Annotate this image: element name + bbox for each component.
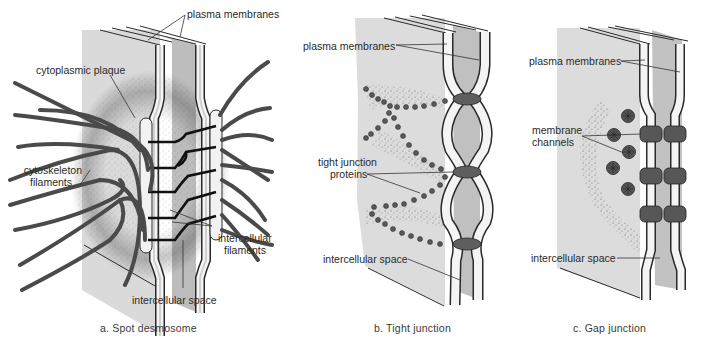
label-cytoskeleton-filaments-line2: filaments (10, 176, 72, 188)
label-membrane-channels-line2: channels (532, 136, 574, 148)
label-intercellular-space-c: intercellular space (531, 252, 616, 264)
tight-junction-protein-1 (453, 93, 481, 105)
label-intercellular-space-b: intercellular space (323, 253, 408, 265)
label-tight-junction-proteins-line1: tight junction (318, 156, 377, 168)
label-membrane-channels-line1: membrane (532, 124, 582, 136)
caption-gap-junction: c. Gap junction (573, 322, 646, 334)
label-cytoplasmic-plaque: cytoplasmic plaque (36, 64, 125, 76)
label-cytoskeleton-filaments-line1: cytoskeleton (10, 164, 82, 176)
label-plasma-membranes-a: plasma membranes (187, 8, 279, 20)
label-intercellular-filaments-line1: intercellular (218, 232, 272, 244)
label-intercellular-filaments-line2: filaments (224, 244, 266, 256)
caption-tight-junction: b. Tight junction (374, 322, 451, 334)
label-tight-junction-proteins-line2: proteins (330, 168, 367, 180)
tight-junction-protein-2 (453, 166, 481, 178)
label-plasma-membranes-b: plasma membranes (303, 40, 395, 52)
label-plasma-membranes-c: plasma membranes (529, 55, 621, 67)
label-intercellular-space-a: intercellular space (132, 294, 217, 306)
tight-junction-protein-3 (453, 238, 481, 250)
caption-spot-desmosome: a. Spot desmosome (100, 322, 197, 334)
